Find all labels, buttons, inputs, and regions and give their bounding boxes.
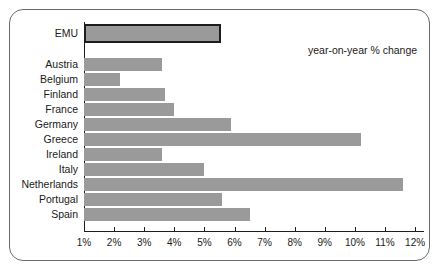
x-tick-label-9pct: 9% [310, 237, 340, 248]
x-tick-1pct [84, 227, 85, 231]
x-tick-label-10pct: 10% [340, 237, 370, 248]
x-tick-12pct [415, 227, 416, 231]
category-label-finland: Finland [0, 89, 78, 100]
x-axis-line [84, 231, 424, 232]
x-tick-2pct [114, 227, 115, 231]
bar-ireland [84, 148, 162, 161]
bar-france [84, 103, 174, 116]
category-label-france: France [0, 104, 78, 115]
category-label-ireland: Ireland [0, 149, 78, 160]
category-label-emu: EMU [0, 28, 78, 39]
category-label-germany: Germany [0, 119, 78, 130]
x-tick-8pct [295, 227, 296, 231]
bar-greece [84, 133, 361, 146]
x-tick-label-4pct: 4% [159, 237, 189, 248]
bar-spain [84, 208, 250, 221]
x-tick-10pct [355, 227, 356, 231]
bar-austria [84, 58, 162, 71]
x-tick-label-3pct: 3% [129, 237, 159, 248]
category-label-greece: Greece [0, 134, 78, 145]
category-label-spain: Spain [0, 209, 78, 220]
category-label-portugal: Portugal [0, 194, 78, 205]
bar-germany [84, 118, 231, 131]
x-tick-label-5pct: 5% [189, 237, 219, 248]
x-tick-label-6pct: 6% [220, 237, 250, 248]
category-label-austria: Austria [0, 59, 78, 70]
x-tick-11pct [385, 227, 386, 231]
bar-chart: year-on-year % change EMUAustriaBelgiumF… [0, 0, 442, 277]
x-tick-7pct [265, 227, 266, 231]
x-tick-5pct [204, 227, 205, 231]
x-tick-9pct [325, 227, 326, 231]
category-label-italy: Italy [0, 164, 78, 175]
bar-belgium [84, 73, 120, 86]
x-tick-3pct [144, 227, 145, 231]
bar-emu [84, 24, 221, 43]
x-tick-label-8pct: 8% [280, 237, 310, 248]
chart-annotation: year-on-year % change [308, 44, 417, 56]
x-tick-4pct [174, 227, 175, 231]
x-tick-label-11pct: 11% [370, 237, 400, 248]
x-tick-label-2pct: 2% [99, 237, 129, 248]
bar-netherlands [84, 178, 403, 191]
bar-portugal [84, 193, 222, 206]
category-label-belgium: Belgium [0, 74, 78, 85]
bar-finland [84, 88, 165, 101]
x-tick-label-7pct: 7% [250, 237, 280, 248]
x-tick-label-1pct: 1% [69, 237, 99, 248]
x-tick-label-12pct: 12% [400, 237, 430, 248]
bar-italy [84, 163, 204, 176]
x-tick-6pct [235, 227, 236, 231]
category-label-netherlands: Netherlands [0, 179, 78, 190]
